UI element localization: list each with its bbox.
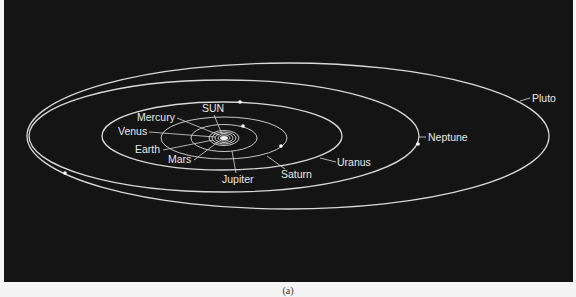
planet-dot-jupiter xyxy=(241,124,245,128)
label-saturn: Saturn xyxy=(281,168,312,180)
planet-dot-saturn xyxy=(279,144,283,148)
label-venus: Venus xyxy=(118,125,147,137)
orbits-layer xyxy=(27,63,549,209)
figure-caption: (a) xyxy=(0,285,576,296)
leader-line-earth xyxy=(163,140,213,150)
orbit-pluto xyxy=(27,63,549,209)
label-neptune: Neptune xyxy=(428,131,468,143)
labels-layer: SUNMercuryVenusEarthMarsJupiterSaturnUra… xyxy=(118,92,556,185)
sun-icon xyxy=(220,136,228,140)
planet-dot-uranus xyxy=(238,100,242,104)
label-jupiter: Jupiter xyxy=(222,173,254,185)
leader-line-venus xyxy=(149,132,215,137)
label-mercury: Mercury xyxy=(137,111,176,123)
leader-line-pluto xyxy=(520,98,530,101)
label-pluto: Pluto xyxy=(532,92,556,104)
sun-disc xyxy=(220,136,228,140)
planet-dot-pluto xyxy=(63,171,67,175)
leader-line-uranus xyxy=(320,158,336,162)
solar-system-orbits-diagram: SUNMercuryVenusEarthMarsJupiterSaturnUra… xyxy=(0,0,576,297)
leader-line-mercury xyxy=(177,118,219,135)
label-earth: Earth xyxy=(135,143,160,155)
planet-dot-neptune xyxy=(416,142,420,146)
label-uranus: Uranus xyxy=(337,156,371,168)
label-sun: SUN xyxy=(202,102,224,114)
label-mars: Mars xyxy=(168,153,191,165)
